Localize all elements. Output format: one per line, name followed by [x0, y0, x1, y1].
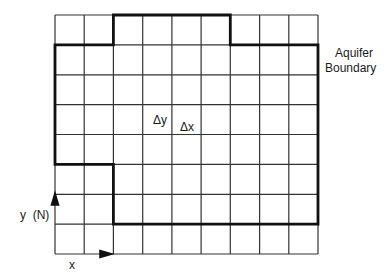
axis-arrows [52, 193, 113, 258]
grid-lines [55, 15, 318, 254]
y-axis-label: y (N) [20, 208, 49, 222]
dx-label: Δx [180, 120, 194, 134]
grid-diagram [0, 0, 391, 276]
x-axis-label: x [69, 258, 75, 272]
dy-label: Δy [153, 113, 167, 127]
boundary-label-line2: Boundary [325, 61, 376, 75]
x-arrow-icon [100, 251, 112, 258]
boundary-label-line1: Aquifer [335, 46, 373, 60]
